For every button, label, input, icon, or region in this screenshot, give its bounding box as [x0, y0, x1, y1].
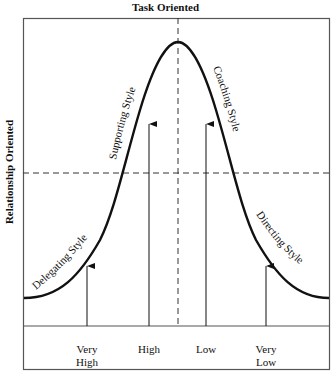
- supporting-style-label: Supporting Style: [106, 85, 137, 160]
- directing-style-label: Directing Style: [254, 209, 306, 266]
- chart-frame: [24, 19, 330, 370]
- leadership-curve-diagram: Delegating Style Supporting Style Coachi…: [0, 0, 331, 378]
- maturity-very-low: Very Low: [236, 343, 296, 369]
- maturity-very-high: Very High: [57, 343, 117, 369]
- maturity-high: High: [119, 343, 179, 356]
- coaching-style-label: Coaching Style: [211, 64, 243, 133]
- delegating-style-label: Delegating Style: [30, 231, 90, 291]
- maturity-low: Low: [176, 343, 236, 356]
